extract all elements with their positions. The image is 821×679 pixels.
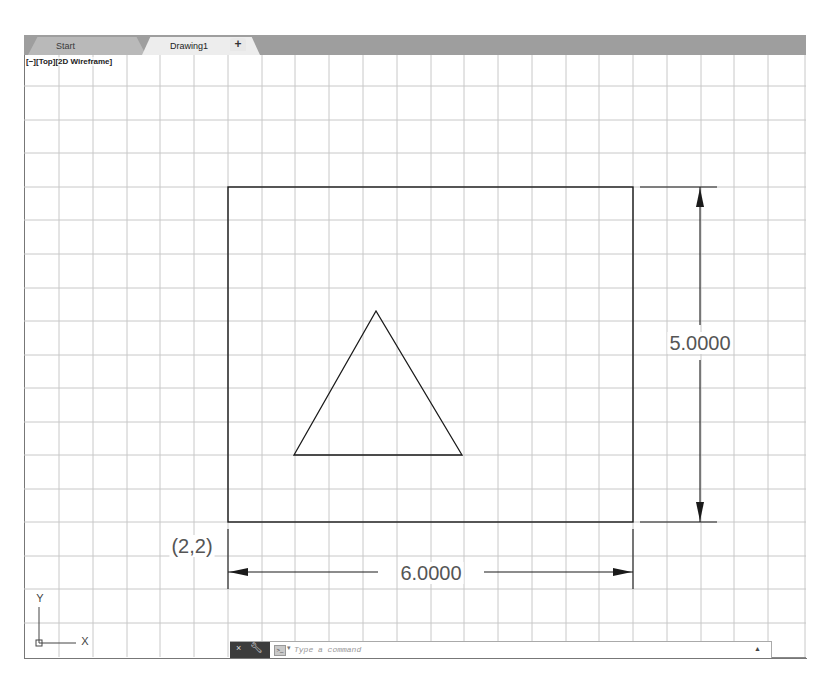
drawing-canvas[interactable]: 5.0000 6.0000 (2,2) Y X (0, 0, 821, 679)
command-history-toggle-icon[interactable]: ▲ (754, 645, 761, 652)
command-line[interactable]: × 🔧︎ >_ ▾ ▲ (230, 641, 772, 658)
horizontal-dimension-text: 6.0000 (400, 562, 461, 584)
ucs-x-label: X (81, 635, 89, 647)
close-command-line-icon[interactable]: × (236, 643, 241, 653)
viewport-border-stub (771, 657, 806, 658)
recent-commands-dropdown-icon[interactable]: ▾ (287, 644, 291, 652)
command-prompt-icon[interactable]: >_ (274, 645, 286, 656)
triangle-geometry[interactable] (294, 311, 462, 455)
command-input[interactable] (294, 643, 694, 656)
viewport-controls-label[interactable]: [−][Top][2D Wireframe] (26, 57, 112, 66)
vertical-dimension-text: 5.0000 (669, 332, 730, 354)
ucs-y-label: Y (36, 592, 44, 604)
command-line-controls: × 🔧︎ (230, 642, 270, 658)
ucs-icon (36, 607, 76, 646)
origin-coordinate-label: (2,2) (171, 535, 212, 557)
wrench-icon[interactable]: 🔧︎ (250, 642, 263, 653)
